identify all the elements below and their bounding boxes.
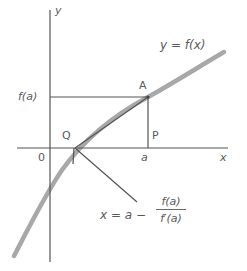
formula-denominator: f′(a) (156, 210, 186, 224)
x-axis-label: x (220, 152, 227, 163)
origin-label: 0 (38, 152, 45, 163)
point-a-marker (146, 95, 149, 98)
fa-tick-label: f(a) (18, 91, 37, 102)
point-a-label: A (139, 80, 147, 91)
formula-lhs: x = a − (100, 209, 146, 221)
curve-label: y = f(x) (160, 39, 205, 51)
curve-f-of-x (14, 52, 224, 256)
q-tick (73, 148, 74, 164)
formula-fraction: f(a) f′(a) (156, 196, 186, 224)
point-q-label: Q (62, 130, 71, 141)
tangent-line-aq (75, 97, 148, 148)
diagram-canvas (0, 0, 247, 271)
y-axis-label: y (55, 5, 62, 16)
point-p-label: P (152, 130, 159, 141)
formula-leader-line (75, 148, 137, 202)
a-tick-label: a (141, 152, 148, 163)
formula-numerator: f(a) (156, 196, 186, 209)
